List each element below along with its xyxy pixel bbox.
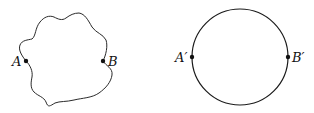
irregular-closed-curve [19, 13, 112, 106]
point-a-marker [24, 59, 28, 63]
topology-diagram: A B A′ B′ [0, 0, 314, 113]
point-b-label: B [107, 54, 118, 69]
point-a-prime-label: A′ [174, 50, 187, 65]
point-a-prime-marker [190, 55, 194, 59]
circle [192, 9, 288, 105]
point-b-marker [101, 59, 105, 63]
point-a-label: A [11, 54, 21, 69]
point-b-prime-label: B′ [291, 50, 305, 65]
point-b-prime-marker [286, 55, 290, 59]
